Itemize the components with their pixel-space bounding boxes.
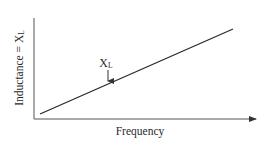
y-axis-label-subscript: L [17, 30, 26, 35]
reactance-line [40, 29, 233, 114]
xl-annotation-label: XL [99, 57, 112, 70]
xl-annotation-main: X [99, 56, 108, 70]
y-axis-label-main: Inductance = X [13, 35, 25, 106]
xl-annotation-subscript: L [108, 61, 113, 70]
x-axis-label: Frequency [116, 126, 165, 138]
y-axis-label: Inductance = XL [14, 30, 26, 106]
chart-canvas [0, 0, 270, 145]
